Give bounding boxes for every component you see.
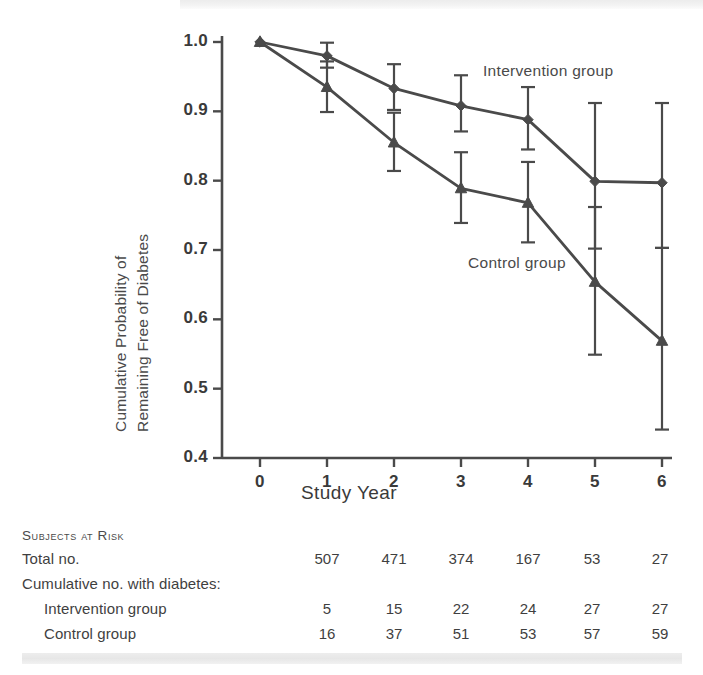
x-tick-label-0: 0 [248,472,272,492]
subjects-at-risk-table: Subjects at Risk Total no.50747137416753… [0,524,703,654]
risk-table-row: Total no.5074713741675327 [0,550,703,572]
data-point-control-group-year-3 [455,182,466,193]
risk-cell: 507 [307,550,347,567]
risk-table-row: Cumulative no. with diabetes: [0,575,703,597]
risk-cell: 374 [441,550,481,567]
y-tick-label-0.5: 0.5 [162,378,208,398]
figure-page: Cumulative Probability of Remaining Free… [0,0,703,675]
x-tick-label-3: 3 [449,472,473,492]
risk-cell: 27 [640,550,680,567]
risk-cell: 59 [640,625,680,642]
risk-cell: 27 [640,600,680,617]
risk-cell: 471 [374,550,414,567]
y-axis-title-line2: Remaining Free of Diabetes [134,234,152,432]
data-point-control-group-year-1 [321,81,332,92]
risk-row-label: Control group [44,625,136,642]
scan-artifact-bottom [22,653,682,664]
risk-cell: 37 [374,625,414,642]
risk-cell: 16 [307,625,347,642]
y-tick-label-0.7: 0.7 [162,239,208,259]
risk-cell: 51 [441,625,481,642]
x-tick-label-5: 5 [583,472,607,492]
risk-cell: 5 [307,600,347,617]
series-label-intervention-group: Intervention group [483,62,613,80]
risk-row-label: Intervention group [44,600,167,617]
data-point-intervention-group-year-3 [456,101,466,111]
series-label-control-group: Control group [468,254,566,272]
risk-table-row: Control group163751535759 [0,625,703,647]
data-point-intervention-group-year-2 [389,83,399,93]
risk-cell: 24 [508,600,548,617]
risk-cell: 53 [508,625,548,642]
y-tick-label-0.4: 0.4 [162,447,208,467]
x-tick-label-6: 6 [650,472,674,492]
risk-row-label: Total no. [22,550,80,567]
y-axis-title-line1: Cumulative Probability of [112,256,130,432]
survival-chart: Cumulative Probability of Remaining Free… [0,0,703,500]
y-tick-label-0.9: 0.9 [162,100,208,120]
risk-cell: 15 [374,600,414,617]
risk-table-heading: Subjects at Risk [22,528,124,543]
risk-cell: 167 [508,550,548,567]
data-point-intervention-group-year-1 [322,51,332,61]
data-point-intervention-group-year-6 [657,178,667,188]
risk-table-row: Intervention group51522242727 [0,600,703,622]
risk-cell: 22 [441,600,481,617]
x-tick-label-4: 4 [516,472,540,492]
risk-row-label: Cumulative no. with diabetes: [22,575,221,592]
y-tick-label-0.8: 0.8 [162,170,208,190]
risk-cell: 27 [572,600,612,617]
y-tick-label-1.0: 1.0 [162,31,208,51]
y-tick-label-0.6: 0.6 [162,308,208,328]
x-axis-title: Study Year [301,482,397,504]
risk-cell: 53 [572,550,612,567]
risk-cell: 57 [572,625,612,642]
